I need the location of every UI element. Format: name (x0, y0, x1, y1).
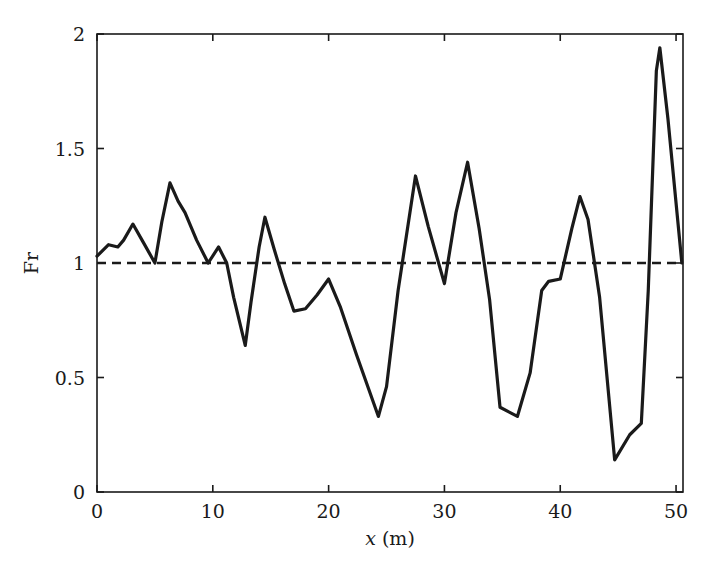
x-tick-label-30: 30 (432, 500, 456, 522)
x-axis-title: x (m) (365, 527, 415, 549)
data-series-group (97, 48, 682, 460)
y-tick-label-0.5: 0.5 (55, 367, 85, 389)
y-tick-label-1.5: 1.5 (55, 138, 85, 160)
x-tick-label-40: 40 (548, 500, 572, 522)
x-tick-label-0: 0 (91, 500, 103, 522)
x-axis-tick-labels: 01020304050 (91, 500, 688, 522)
y-axis-tick-labels: 00.511.52 (55, 23, 85, 503)
x-tick-label-50: 50 (664, 500, 688, 522)
y-tick-label-2: 2 (73, 23, 85, 45)
y-tick-label-0: 0 (73, 481, 85, 503)
froude-number-line-chart: 01020304050 00.511.52 x (m) Fr (0, 0, 723, 576)
x-tick-label-20: 20 (317, 500, 341, 522)
series-line-Fr (97, 48, 682, 460)
figure-container: 01020304050 00.511.52 x (m) Fr (0, 0, 723, 576)
y-tick-label-1: 1 (73, 252, 85, 274)
x-tick-label-10: 10 (201, 500, 225, 522)
y-axis-title: Fr (20, 251, 42, 274)
